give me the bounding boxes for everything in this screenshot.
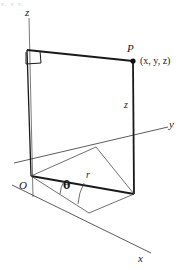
- projection-diagonal-line: [96, 147, 134, 194]
- point-p-marker: [130, 58, 135, 63]
- right-angle-marker: [26, 51, 41, 64]
- segment-z-line: [133, 61, 134, 194]
- segment-z-label: z: [124, 100, 128, 110]
- y-axis-label: y: [169, 119, 174, 130]
- coordinate-figure: v, v v, z y x P (x, y,: [0, 0, 183, 270]
- plane-top-edge: [27, 50, 133, 61]
- point-p-label: P: [127, 43, 134, 54]
- theta-angle-arc-outer: [78, 183, 84, 204]
- origin-label: O: [19, 180, 27, 191]
- z-axis-label: z: [25, 7, 29, 18]
- projection-lower-line-b: [89, 194, 134, 213]
- figure-drawing: [0, 0, 183, 270]
- theta-angle-label: θ: [63, 180, 70, 191]
- y-axis-line: [14, 127, 168, 163]
- x-axis-label: x: [138, 253, 143, 264]
- point-coordinates-label: (x, y, z): [140, 56, 170, 66]
- segment-r-line: [31, 176, 134, 194]
- segment-r-label: r: [86, 170, 90, 180]
